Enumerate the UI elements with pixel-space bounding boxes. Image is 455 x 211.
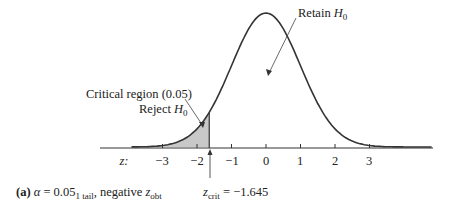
- reject-h0-label: Reject H0: [139, 102, 188, 118]
- retain-h0-label: Retain H0: [298, 6, 347, 22]
- tick-label: −3: [155, 154, 168, 169]
- tick-label: 2: [332, 154, 338, 169]
- zcrit-label: zcrit = −1.645: [203, 185, 268, 201]
- normal-curve-plot: [0, 0, 455, 211]
- normal-curve: [132, 13, 432, 147]
- caption: (a) α = 0.051 tail, negative zobt: [16, 185, 162, 201]
- critical-region-label: Critical region (0.05): [86, 87, 192, 102]
- tick-label: −2: [190, 154, 203, 169]
- tick-label: 0: [263, 154, 269, 169]
- tick-label: 3: [366, 154, 372, 169]
- tick-label: 1: [297, 154, 303, 169]
- tick-label: −1: [225, 154, 238, 169]
- z-axis-label: z:: [119, 154, 128, 169]
